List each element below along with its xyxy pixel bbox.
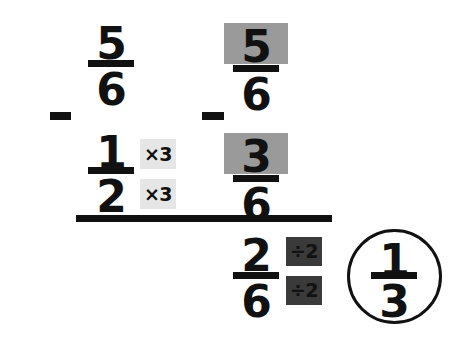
sum-horizontal-rule	[76, 215, 332, 222]
divide-denominator-badge: ÷2	[286, 276, 322, 305]
left-bottom-denominator: 2	[88, 175, 134, 219]
fraction-worksheet-diagram: 5 6 1 2 ×3 ×3 5 6 3 6 2 6 ÷2 ÷2 1 3	[0, 0, 451, 346]
left-minus-operator-icon	[50, 112, 71, 120]
result-denominator: 6	[233, 280, 279, 324]
left-top-denominator: 6	[88, 68, 134, 112]
multiply-numerator-badge: ×3	[140, 139, 176, 169]
multiply-denominator-badge: ×3	[140, 179, 176, 209]
right-bottom-numerator: 3	[224, 135, 288, 179]
right-minus-operator-icon	[202, 112, 224, 120]
divide-numerator-badge: ÷2	[286, 237, 322, 266]
answer-denominator: 3	[371, 280, 417, 324]
right-top-denominator: 6	[233, 73, 279, 117]
right-top-numerator: 5	[224, 25, 288, 69]
